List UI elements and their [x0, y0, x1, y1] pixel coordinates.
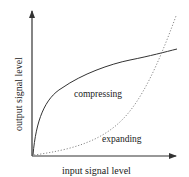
signal-level-diagram: compressing expanding input signal level… [0, 0, 189, 177]
y-axis-label: output signal level [13, 57, 24, 131]
x-axis-label: input signal level [62, 165, 131, 176]
expanding-label: expanding [102, 134, 142, 144]
compressing-label: compressing [74, 89, 122, 99]
